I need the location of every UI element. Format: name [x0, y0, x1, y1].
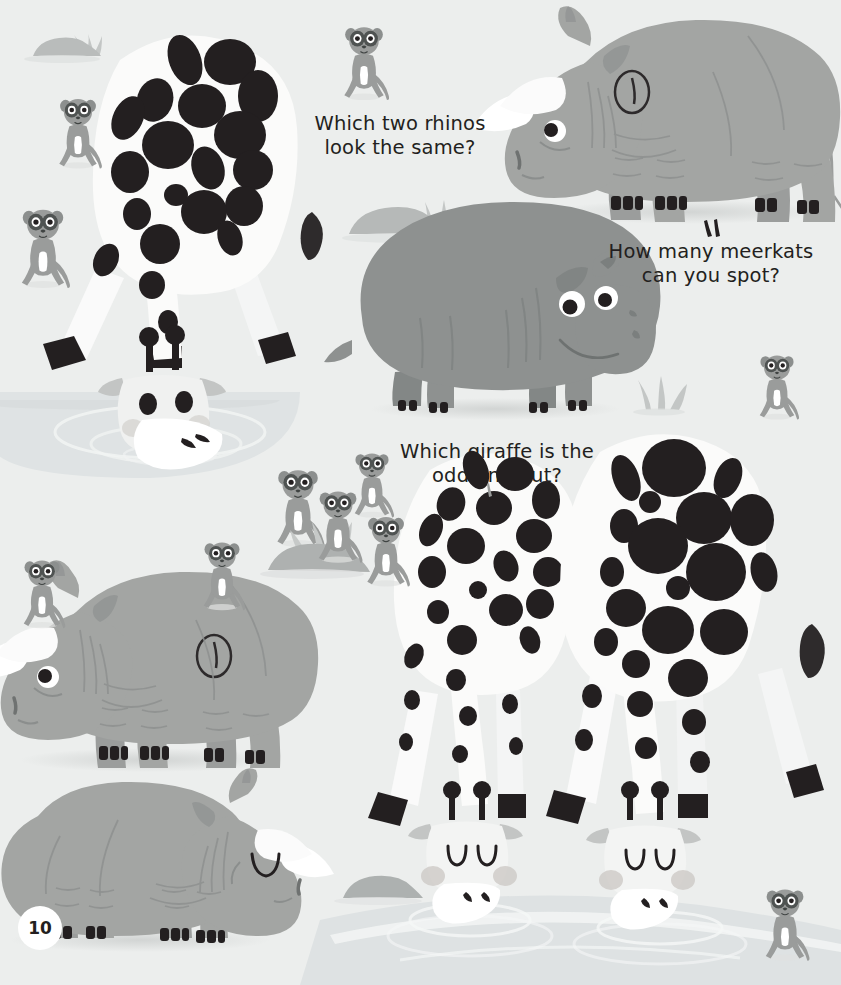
grass-mark-above-meerkat-question — [704, 219, 720, 237]
illustration-page: Which two rhinos look the same? How many… — [0, 0, 841, 985]
grass-mark-below-giraffe-question — [487, 483, 492, 497]
page-number: 10 — [18, 906, 62, 950]
decorative-marks-layer — [0, 0, 841, 985]
